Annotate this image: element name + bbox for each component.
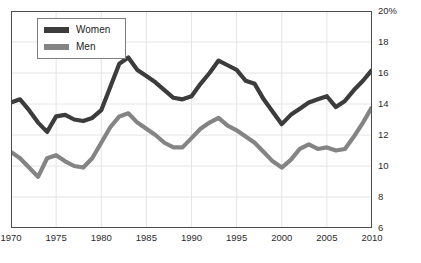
legend-label-women: Women (76, 25, 110, 35)
y-tick-label: 8 (378, 192, 383, 202)
y-tick-label: 10 (378, 161, 389, 171)
legend-item-women: Women (44, 23, 110, 37)
x-tick-label: 1985 (126, 233, 166, 243)
legend-swatch-women (44, 27, 69, 33)
chart-container: 20%181614121086 197019751980198519901995… (0, 0, 421, 263)
x-tick-label: 1970 (0, 233, 31, 243)
y-tick-label: 18 (378, 37, 389, 47)
x-tick-label: 1980 (81, 233, 121, 243)
x-tick-label: 1975 (36, 233, 76, 243)
legend-label-men: Men (76, 42, 95, 52)
x-tick-label: 1995 (217, 233, 257, 243)
legend-item-men: Men (44, 40, 95, 54)
y-tick-label: 16 (378, 68, 389, 78)
x-tick-label: 2005 (307, 233, 347, 243)
y-tick-label: 20% (378, 6, 397, 16)
y-tick-label: 12 (378, 130, 389, 140)
chart-legend: Women Men (37, 18, 126, 59)
x-tick-label: 2000 (262, 233, 302, 243)
x-tick-label: 2010 (352, 233, 392, 243)
y-tick-label: 14 (378, 99, 389, 109)
legend-swatch-men (44, 44, 69, 50)
x-tick-label: 1990 (172, 233, 212, 243)
